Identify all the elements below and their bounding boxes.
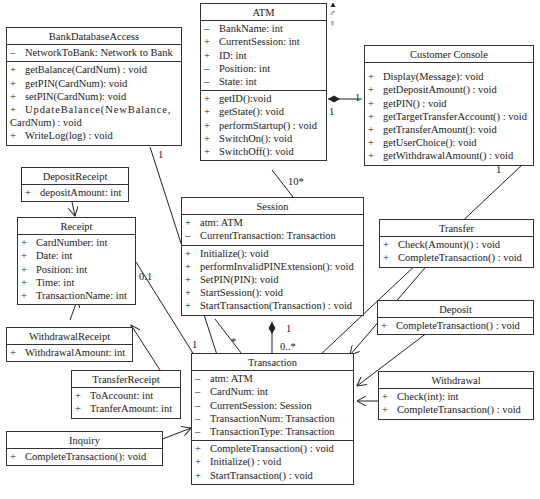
multiplicity-label: 0..* — [280, 341, 296, 352]
method: +getDepositAmount() : void — [365, 83, 533, 96]
method: +CompleteTransaction() : void — [378, 319, 533, 332]
attributes: +WithdrawalAmount: int — [7, 345, 132, 361]
attribute: –Position: int — [201, 62, 326, 75]
method: +StartTransaction(Transaction) : void — [182, 299, 363, 312]
method: +StartSession(): void — [182, 286, 363, 299]
class-transfer[interactable]: Transfer +Check(Amount)() : void +Comple… — [379, 219, 534, 268]
method: +getTargetTransferAccount() : void — [365, 110, 533, 123]
class-withdrawalreceipt[interactable]: WithdrawalReceipt +WithdrawalAmount: int — [6, 327, 133, 362]
multiplicity-label: 1 — [158, 149, 163, 160]
method: +getPIN(CardNum): void — [7, 77, 181, 90]
class-customer-console[interactable]: Customer Console +Display(Message): void… — [364, 45, 534, 166]
multiplicity-label: 0.1 — [139, 271, 152, 282]
attribute: +Time: int — [18, 276, 135, 289]
methods: +getBalance(CardNum) : void +getPIN(Card… — [7, 61, 181, 144]
method: +performStartup() : void — [201, 119, 326, 132]
attribute: +ToAccount: int — [72, 389, 180, 402]
attribute: +ID: int — [201, 49, 326, 62]
attribute: +TransactionName: int — [18, 289, 135, 302]
class-depositreceipt[interactable]: DepositReceipt +depositAmount: int — [21, 167, 129, 202]
method: +getID():void — [201, 92, 326, 105]
methods: +Initialize(): void +performInvalidPINEx… — [182, 245, 363, 315]
method: +getPIN() : void — [365, 97, 533, 110]
class-transferreceipt[interactable]: TransferReceipt +ToAccount: int +Tranfer… — [71, 370, 181, 419]
attributes: +CardNumber: int +Date: int +Position: i… — [18, 235, 135, 304]
method: +WriteLog(log) : void — [7, 129, 181, 142]
class-withdrawal[interactable]: Withdrawal +Check(int): int +CompleteTra… — [378, 371, 534, 420]
method: +SetPIN(PIN): void — [182, 273, 363, 286]
class-title: Withdrawal — [379, 372, 533, 389]
class-title: TransferReceipt — [72, 371, 180, 388]
method: +Initialize() : void — [192, 455, 353, 468]
multiplicity-label: 1 — [355, 92, 360, 103]
class-inquiry[interactable]: Inquiry +CompleteTransaction(): void — [6, 431, 163, 466]
methods: +Check(int): int +CompleteTransaction() … — [379, 389, 533, 418]
attributes: +depositAmount: int — [22, 185, 128, 201]
attributes: +atm: ATM –CurrentTransaction: Transacti… — [182, 215, 363, 244]
method: +getUserChoice(): void — [365, 136, 533, 149]
class-bankdatabaseaccess[interactable]: BankDatabaseAccess –NetworkToBank: Netwo… — [6, 27, 182, 146]
method: +SwitchOn(): void — [201, 132, 326, 145]
class-title: Receipt — [18, 218, 135, 235]
attribute: +Date: int — [18, 249, 135, 262]
class-title: DepositReceipt — [22, 168, 128, 185]
method: +Check(int): int — [379, 390, 533, 403]
method: +getState(): void — [201, 105, 326, 118]
method: +getBalance(CardNum) : void — [7, 63, 181, 76]
class-title: Session — [182, 198, 363, 215]
class-session[interactable]: Session +atm: ATM –CurrentTransaction: T… — [181, 197, 364, 316]
method-continued: CardNum) : void — [7, 116, 181, 129]
attribute: +TranferAmount: int — [72, 402, 180, 415]
class-deposit[interactable]: Deposit +CompleteTransaction() : void — [377, 300, 534, 335]
method: +CompleteTransaction() : void — [380, 251, 533, 264]
attributes: –atm: ATM –CardNum: int –CurrentSession:… — [192, 371, 353, 440]
method: +setPIN(CardNum): void — [7, 90, 181, 103]
attribute: +atm: ATM — [182, 216, 363, 229]
class-title: Deposit — [378, 301, 533, 318]
class-atm[interactable]: ATM –BankName: int +CurrentSession: int … — [200, 3, 327, 161]
methods: +CompleteTransaction() : void +Initializ… — [192, 440, 353, 484]
method: +getTransferAmount(): void — [365, 123, 533, 136]
multiplicity-label: 1 — [192, 339, 197, 350]
methods: +getID():void +getState(): void +perform… — [201, 90, 326, 160]
attribute: –State: int — [201, 75, 326, 88]
method: +CompleteTransaction() : void — [192, 442, 353, 455]
attributes: +ToAccount: int +TranferAmount: int — [72, 388, 180, 417]
attribute: +Position: int — [18, 263, 135, 276]
attribute: –NetworkToBank: Network to Bank — [7, 46, 181, 59]
attribute: +depositAmount: int — [22, 186, 128, 199]
attribute: –CurrentTransaction: Transaction — [182, 229, 363, 242]
attribute: –CurrentSession: Session — [192, 399, 353, 412]
attribute: +CardNumber: int — [18, 236, 135, 249]
class-title: Transfer — [380, 220, 533, 237]
attribute: –BankName: int — [201, 22, 326, 35]
class-receipt[interactable]: Receipt +CardNumber: int +Date: int +Pos… — [17, 217, 136, 305]
multiplicity-label: 10* — [288, 176, 304, 187]
method: +Check(Amount)() : void — [380, 238, 533, 251]
multiplicity-label: 1 — [329, 106, 334, 117]
class-title: Transaction — [192, 354, 353, 371]
class-title: ATM — [201, 4, 326, 21]
method: +performInvalidPINExtension(): void — [182, 260, 363, 273]
attribute: –TransactionType: Transaction — [192, 425, 353, 438]
attribute: –TransactionNum: Transaction — [192, 412, 353, 425]
legend-female-icon: ♀ — [329, 18, 336, 28]
method: +getWithdrawalAmount() : void — [365, 149, 533, 162]
class-title: Customer Console — [365, 46, 533, 63]
method: +CompleteTransaction() : void — [379, 403, 533, 416]
methods: +Display(Message): void +getDepositAmoun… — [365, 69, 533, 164]
attributes: –NetworkToBank: Network to Bank — [7, 45, 181, 61]
method: +StartTransaction() : void — [192, 469, 353, 482]
attribute: +CurrentSession: int — [201, 35, 326, 48]
multiplicity-label: 1 — [496, 164, 501, 175]
method: +UpdateBalance(NewBalance, — [7, 103, 181, 116]
attributes: –BankName: int +CurrentSession: int +ID:… — [201, 21, 326, 90]
methods: +Check(Amount)() : void +CompleteTransac… — [380, 237, 533, 266]
class-title: BankDatabaseAccess — [7, 28, 181, 45]
attribute: –atm: ATM — [192, 372, 353, 385]
class-transaction[interactable]: Transaction –atm: ATM –CardNum: int –Cur… — [191, 353, 354, 485]
methods: +CompleteTransaction(): void — [7, 449, 162, 465]
method: +Display(Message): void — [365, 70, 533, 83]
class-title: Inquiry — [7, 432, 162, 449]
multiplicity-label: * — [231, 336, 236, 347]
